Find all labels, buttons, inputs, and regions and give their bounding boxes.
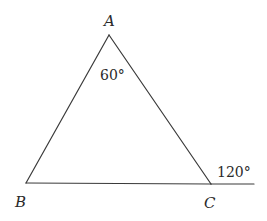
vertex-label-c: C <box>204 194 216 212</box>
angle-label-exterior-c: 120° <box>217 164 251 180</box>
angle-label-a: 60° <box>100 67 125 83</box>
side-ac <box>109 35 211 184</box>
vertex-label-a: A <box>102 12 115 30</box>
vertex-label-b: B <box>14 193 26 211</box>
side-bc <box>26 183 211 184</box>
side-ab <box>26 35 109 183</box>
triangle-diagram: A B C 60° 120° <box>0 0 267 221</box>
